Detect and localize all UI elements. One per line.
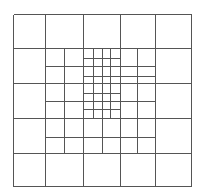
background bbox=[0, 0, 201, 195]
mesh-grid-diagram bbox=[0, 0, 201, 195]
